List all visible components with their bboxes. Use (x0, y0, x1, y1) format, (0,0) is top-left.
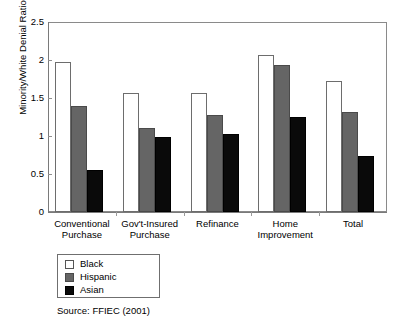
source-note: Source: FFIEC (2001) (57, 305, 150, 316)
legend-item: Hispanic (65, 271, 159, 283)
bar-asian (155, 137, 171, 212)
bar-hispanic (71, 106, 87, 212)
y-axis-tick-label: 1.5 (31, 93, 44, 103)
bar-groups (48, 22, 387, 212)
bar-asian (87, 170, 103, 212)
bar-group (123, 22, 171, 212)
legend-item-label: Black (80, 259, 103, 269)
bar-black (258, 55, 274, 212)
x-axis-tick-mark (319, 212, 320, 216)
y-axis-title: Minority/White Denial Ratio (17, 0, 28, 138)
y-axis-tick-label: 0.5 (31, 169, 44, 179)
y-axis-tick-label: 0 (39, 207, 44, 217)
bar-chart: 00.511.522.5 Minority/White Denial Ratio… (0, 0, 407, 331)
bar-asian (290, 117, 306, 212)
y-axis-tick-mark (48, 174, 52, 175)
y-axis-tick-mark (48, 98, 52, 99)
legend-item: Black (65, 258, 159, 270)
x-axis-category-label: Total (311, 218, 395, 229)
bar-black (55, 62, 71, 212)
legend-item: Asian (65, 284, 159, 296)
gray-swatch-icon (65, 273, 74, 282)
y-axis-tick-label: 1 (39, 131, 44, 141)
bar-hispanic (207, 115, 223, 212)
y-axis-tick-label: 2.5 (31, 17, 44, 27)
bar-hispanic (139, 128, 155, 212)
bar-black (326, 81, 342, 212)
black-swatch-icon (65, 286, 74, 295)
bar-asian (223, 134, 239, 212)
bar-asian (358, 156, 374, 212)
bar-group (258, 22, 306, 212)
x-axis-tick-mark (116, 212, 117, 216)
bar-group (55, 22, 103, 212)
legend-item-label: Asian (80, 285, 104, 295)
bar-black (191, 93, 207, 212)
legend: Black Hispanic Asian (57, 254, 160, 298)
x-axis-line (48, 212, 387, 213)
x-axis-tick-mark (184, 212, 185, 216)
bar-hispanic (274, 65, 290, 212)
y-axis-tick-mark (48, 136, 52, 137)
y-axis-tick-label: 2 (39, 55, 44, 65)
legend-item-label: Hispanic (80, 272, 116, 282)
bar-black (123, 93, 139, 212)
y-axis-tick-mark (48, 60, 52, 61)
bar-hispanic (342, 112, 358, 212)
white-swatch-icon (65, 260, 74, 269)
x-axis-tick-mark (251, 212, 252, 216)
bar-group (191, 22, 239, 212)
bar-group (326, 22, 374, 212)
